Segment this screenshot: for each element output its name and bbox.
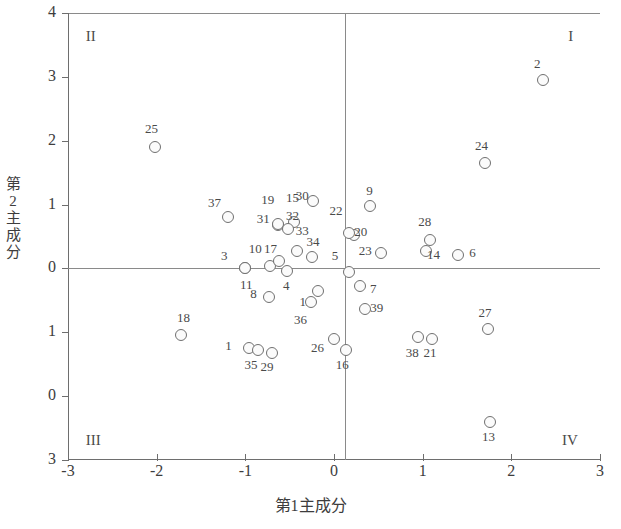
data-point-21 xyxy=(426,333,438,345)
y-tick-mark xyxy=(62,396,69,397)
data-point-label-30: 30 xyxy=(296,188,309,204)
x-tick-label: 0 xyxy=(314,462,354,480)
data-point-label-32: 32 xyxy=(286,208,299,224)
data-point-label-20: 20 xyxy=(354,224,367,240)
data-point-label-28: 28 xyxy=(418,214,431,230)
x-tick-label: 1 xyxy=(403,462,443,480)
data-point-label-38: 38 xyxy=(406,345,419,361)
y-tick-label: 0 xyxy=(30,258,56,276)
data-point-23 xyxy=(375,247,387,259)
y-axis-title-char: 主 xyxy=(2,210,24,227)
data-point-label-7: 7 xyxy=(370,281,377,297)
scatter-plot-figure: 第2主成分 第1主成分 43210103 -3-2-10123 IIIIIIIV… xyxy=(0,0,621,529)
data-point-16 xyxy=(340,344,352,356)
y-axis-title-char: 第 xyxy=(2,176,24,193)
data-point-label-29: 29 xyxy=(260,359,273,375)
y-tick-mark xyxy=(62,332,69,333)
data-point-label-17: 17 xyxy=(264,241,277,257)
data-point-label-13: 13 xyxy=(482,429,495,445)
data-point-label-3: 3 xyxy=(221,248,228,264)
data-point-34 xyxy=(306,251,318,263)
y-tick-mark xyxy=(62,77,69,78)
y-tick-label: 0 xyxy=(30,386,56,404)
x-axis-title: 第1主成分 xyxy=(0,492,621,516)
data-point-25 xyxy=(149,141,161,153)
quadrant-label-III: III xyxy=(86,432,101,449)
quadrant-label-IV: IV xyxy=(562,432,578,449)
data-point-label-23: 23 xyxy=(359,243,372,259)
y-tick-label: 2 xyxy=(30,131,56,149)
data-point-label-10: 10 xyxy=(249,241,262,257)
data-point-7 xyxy=(354,280,366,292)
data-point-label-21: 21 xyxy=(424,345,437,361)
data-point-35 xyxy=(252,344,264,356)
x-tick-mark xyxy=(511,454,512,461)
data-point-label-2: 2 xyxy=(534,56,541,72)
data-point-label-16: 16 xyxy=(336,357,349,373)
data-point-label-35: 35 xyxy=(244,357,257,373)
y-axis-title: 第2主成分 xyxy=(2,176,24,261)
data-point-label-11: 11 xyxy=(240,277,253,293)
data-point-28 xyxy=(424,234,436,246)
data-point-24 xyxy=(479,157,491,169)
data-point-label-1: 1 xyxy=(225,338,232,354)
data-point-33 xyxy=(291,245,303,257)
data-point-label-39: 39 xyxy=(370,300,383,316)
plot-frame xyxy=(68,13,600,460)
x-tick-mark xyxy=(423,454,424,461)
data-point-label-36: 36 xyxy=(294,312,307,328)
data-point-37 xyxy=(222,211,234,223)
horizontal-zero-axis xyxy=(68,268,600,269)
y-tick-mark xyxy=(62,141,69,142)
y-tick-mark xyxy=(62,13,69,14)
data-point-label-27: 27 xyxy=(479,305,492,321)
data-point-label-5: 5 xyxy=(332,248,339,264)
x-tick-label: 2 xyxy=(491,462,531,480)
data-point-12 xyxy=(312,285,324,297)
data-point-label-4: 4 xyxy=(283,278,290,294)
x-tick-mark xyxy=(334,454,335,461)
x-tick-mark xyxy=(157,454,158,461)
quadrant-label-I: I xyxy=(568,28,573,45)
y-axis-title-char: 成 xyxy=(2,227,24,244)
data-point-4 xyxy=(281,265,293,277)
x-tick-label: -3 xyxy=(48,462,88,480)
data-point-13 xyxy=(484,416,496,428)
y-axis-title-char: 分 xyxy=(2,244,24,261)
x-tick-mark xyxy=(245,454,246,461)
x-tick-label: -1 xyxy=(225,462,265,480)
y-tick-label: 1 xyxy=(30,195,56,213)
plot-top-border xyxy=(68,13,600,14)
data-point-label-19: 19 xyxy=(261,192,274,208)
y-tick-mark xyxy=(62,205,69,206)
y-tick-label: 4 xyxy=(30,3,56,21)
y-axis-title-char: 2 xyxy=(2,193,24,210)
data-point-32 xyxy=(282,223,294,235)
x-tick-label: -2 xyxy=(137,462,177,480)
data-point-label-34: 34 xyxy=(306,234,319,250)
data-point-label-22: 22 xyxy=(330,203,343,219)
y-tick-label: 3 xyxy=(30,67,56,85)
data-point-label-37: 37 xyxy=(208,195,221,211)
data-point-label-26: 26 xyxy=(311,340,324,356)
data-point-36 xyxy=(305,296,317,308)
data-point-29 xyxy=(266,347,278,359)
data-point-label-31: 31 xyxy=(257,211,270,227)
quadrant-label-II: II xyxy=(86,28,96,45)
x-tick-mark xyxy=(68,454,69,461)
data-point-label-14: 14 xyxy=(427,247,440,263)
x-tick-mark xyxy=(600,454,601,461)
data-point-label-25: 25 xyxy=(145,121,158,137)
data-point-label-24: 24 xyxy=(475,138,488,154)
x-tick-label: 3 xyxy=(580,462,620,480)
data-point-label-9: 9 xyxy=(366,183,373,199)
data-point-label-6: 6 xyxy=(469,245,476,261)
y-tick-label: 1 xyxy=(30,322,56,340)
data-point-label-18: 18 xyxy=(177,310,190,326)
